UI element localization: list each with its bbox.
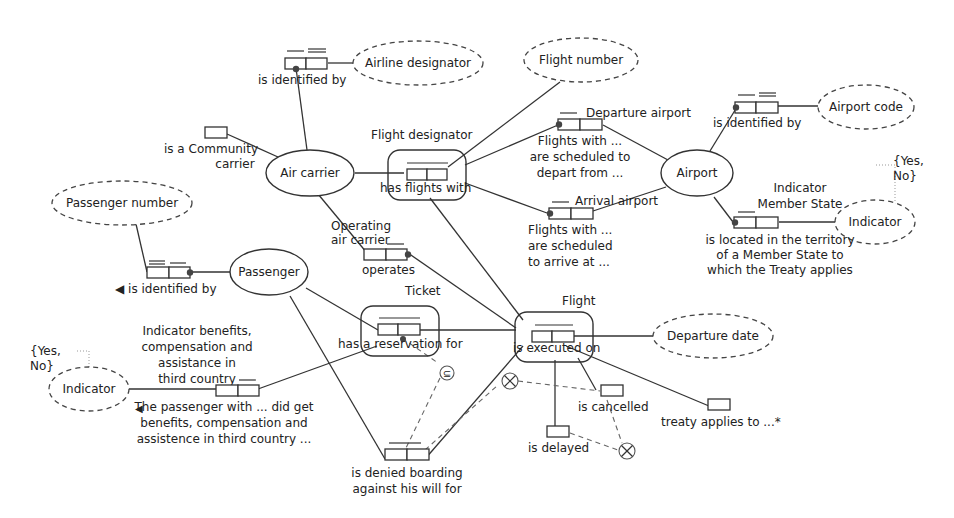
svg-text:Indicator benefits,: Indicator benefits, [142,324,251,338]
airport-code-label: Airport code [829,100,903,114]
entity-airport[interactable]: Airport [661,150,733,196]
value-indicator-left[interactable]: Indicator [49,367,129,411]
svg-text:against his will for: against his will for [352,482,461,496]
svg-text:is a Community: is a Community [164,142,258,156]
value-airport-code[interactable]: Airport code [818,85,914,129]
svg-text:are scheduled: are scheduled [528,239,613,253]
fact-is-cancelled[interactable]: is cancelled [578,385,649,414]
passenger-identified-by-label: ◀ is identified by [115,282,217,296]
airport-label: Airport [676,166,717,180]
svg-text:is located in the territory: is located in the territory [706,233,855,247]
fact-denied-boarding[interactable]: is denied boarding against his will for [351,443,462,496]
svg-text:is denied boarding: is denied boarding [351,466,462,480]
svg-text:are scheduled to: are scheduled to [530,150,630,164]
fact-member-state[interactable]: Indicator Member State is located in the… [706,181,855,277]
svg-text:of a Member State to: of a Member State to [716,248,843,262]
svg-text:Indicator: Indicator [773,181,826,195]
exclusion-constraint-icon-bottom[interactable] [619,443,635,459]
air-carrier-label: Air carrier [280,166,340,180]
fact-indicator-benefits[interactable]: Indicator benefits, compensation and ass… [134,324,314,446]
is-delayed-label: is delayed [528,441,589,455]
passenger-label: Passenger [238,265,300,279]
svg-text:third country: third country [158,372,236,386]
air-carrier-identified-by-label: is identified by [258,73,346,87]
objectified-flight[interactable]: Flight is executed on [513,294,600,362]
objectified-ticket[interactable]: Ticket has a reservation for [338,284,463,356]
svg-text:assistance in: assistance in [158,356,236,370]
fact-operates[interactable]: Operating air carrier operates [331,219,415,277]
value-flight-number[interactable]: Flight number [524,38,638,82]
passenger-number-label: Passenger number [66,196,178,210]
svg-text:benefits, compensation and: benefits, compensation and [140,416,307,430]
svg-text:compensation and: compensation and [141,340,252,354]
indicator-left-label: Indicator [62,382,115,396]
has-reservation-for-label: has a reservation for [338,337,463,351]
is-cancelled-label: is cancelled [578,400,649,414]
fact-treaty-applies[interactable]: treaty applies to ...* [661,399,781,429]
orm-diagram: Flight designator has flights with Ticke… [0,0,954,518]
subset-constraint-icon[interactable]: ⊆ [440,366,454,380]
svg-text:air carrier: air carrier [331,233,390,247]
entity-passenger[interactable]: Passenger [230,249,308,295]
flight-label: Flight [562,294,596,308]
fact-passenger-identified-by[interactable]: ◀ is identified by [115,261,217,296]
svg-text:to arrive at ...: to arrive at ... [528,255,610,269]
ticket-label: Ticket [404,284,441,298]
is-executed-on-label: is executed on [513,341,600,355]
svg-text:No}: No} [30,359,54,373]
fact-is-delayed[interactable]: is delayed [528,426,589,455]
arrival-airport-label: Arrival airport [575,194,658,208]
flight-designator-label: Flight designator [371,128,473,142]
svg-text:Member State: Member State [758,197,843,211]
svg-text:{Yes,: {Yes, [30,344,61,358]
fact-airport-identified-by[interactable]: is identified by [713,93,801,130]
indicator-right-label: Indicator [848,215,901,229]
svg-text:depart from ...: depart from ... [537,166,624,180]
departure-airport-label: Departure airport [586,106,691,120]
airline-designator-label: Airline designator [365,56,471,70]
svg-text:which the Treaty applies: which the Treaty applies [707,263,853,277]
svg-text:⊆: ⊆ [443,368,451,379]
entity-air-carrier[interactable]: Air carrier [266,150,354,196]
value-departure-date[interactable]: Departure date [653,314,773,358]
value-constraint-right: {Yes, No} [893,154,924,183]
exclusion-constraint-icon-top[interactable] [502,373,518,389]
objectified-flight-designator[interactable]: Flight designator has flights with [371,128,473,200]
value-airline-designator[interactable]: Airline designator [353,41,483,85]
svg-text:Flights with ...: Flights with ... [528,223,612,237]
svg-text:assistence in third country ..: assistence in third country ... [137,432,312,446]
svg-text:Operating: Operating [331,219,391,233]
svg-text:carrier: carrier [215,157,254,171]
value-passenger-number[interactable]: Passenger number [52,181,192,225]
treaty-applies-label: treaty applies to ...* [661,415,781,429]
svg-text:{Yes,: {Yes, [893,154,924,168]
airport-identified-by-label: is identified by [713,116,801,130]
flight-number-label: Flight number [539,53,623,67]
departure-date-label: Departure date [667,329,759,343]
operates-label: operates [362,263,415,277]
svg-text:The passenger with ... did get: The passenger with ... did get [134,400,314,414]
svg-text:No}: No} [893,169,917,183]
fact-community-carrier[interactable]: is a Community carrier [164,127,258,171]
svg-text:Flights with ...: Flights with ... [538,134,622,148]
has-flights-with-label: has flights with [380,181,471,195]
fact-air-carrier-identified-by[interactable]: is identified by [258,49,346,87]
fact-arrival-airport[interactable]: Arrival airport Flights with ... are sch… [528,194,658,269]
value-constraint-left: {Yes, No} [30,344,61,373]
